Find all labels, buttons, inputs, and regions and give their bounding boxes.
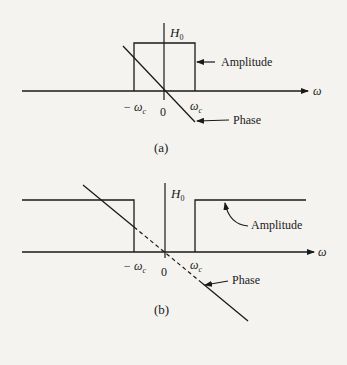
caption-b: (b) [154, 302, 169, 317]
tick-zero-a: 0 [160, 105, 166, 119]
frequency-response-diagram: H0 Amplitude ω − ωc 0 ωc Phase (a) H0 Am… [0, 0, 347, 365]
y-axis-label-b: H0 [170, 186, 184, 203]
phase-curve-b-solid-right [202, 283, 248, 321]
tick-pos-wc-a: ωc [190, 99, 202, 115]
phase-curve-b-solid-left [83, 185, 134, 227]
tick-zero-b: 0 [161, 265, 167, 279]
phase-label-a: Phase [233, 113, 261, 127]
amplitude-label-a: Amplitude [221, 55, 272, 69]
phase-label-b: Phase [232, 273, 260, 287]
amplitude-curve-b-left [22, 200, 134, 252]
caption-a: (a) [154, 140, 168, 155]
x-axis-label-b: ω [318, 245, 326, 259]
figure-a-lowpass: H0 Amplitude ω − ωc 0 ωc Phase (a) [22, 23, 321, 155]
tick-pos-wc-b: ωc [190, 258, 202, 274]
tick-neg-wc-b: − ωc [123, 259, 147, 275]
tick-neg-wc-a: − ωc [123, 100, 147, 116]
x-axis-label-a: ω [313, 84, 321, 98]
amplitude-arrow-b [225, 203, 248, 226]
amplitude-label-b: Amplitude [251, 218, 302, 232]
phase-arrow-a [197, 120, 229, 121]
y-axis-label-a: H0 [169, 25, 183, 42]
phase-arrow-b [205, 281, 228, 285]
figure-b-highpass: H0 Amplitude ω − ωc 0 ωc Phase (b) [22, 183, 326, 321]
